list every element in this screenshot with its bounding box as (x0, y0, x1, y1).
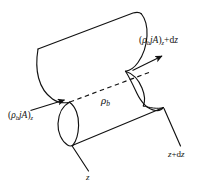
flux-out-increment-var: z (174, 35, 178, 45)
right-cap-closing-arc (143, 106, 163, 108)
left-cap-ellipse-back (70, 102, 79, 145)
left-cap-ellipse-front (58, 102, 73, 146)
mass-flux-out-label: (ρbjA)z+dz (139, 36, 178, 46)
axial-position-z-plus-dz-label: z+dz (168, 150, 185, 159)
flux-in-position-subscript: z (31, 114, 34, 121)
cylinder-bottom-edge (73, 108, 164, 146)
z-dz-leader-line (164, 109, 181, 147)
left-cap-outer-curve (37, 49, 70, 103)
flux-in-arrow (31, 100, 65, 111)
z-dz-differential-var: z (181, 149, 185, 159)
axial-position-z-label: z (86, 173, 90, 182)
figure-drawing (0, 0, 222, 192)
flux-out-increment: +d (164, 35, 174, 45)
bulk-density-label: ρb (101, 95, 110, 108)
z-leader-line (72, 146, 89, 171)
mass-flux-in-label: (ρbjA)z (8, 111, 33, 121)
cylinder-top-ridge (38, 12, 142, 49)
cylinder-control-volume-figure: (ρbjA)z (ρbjA)z+dz ρb z z+dz (0, 0, 222, 192)
right-cap-ellipse-lower (126, 71, 164, 110)
bulk-density-subscript: b (106, 99, 110, 108)
